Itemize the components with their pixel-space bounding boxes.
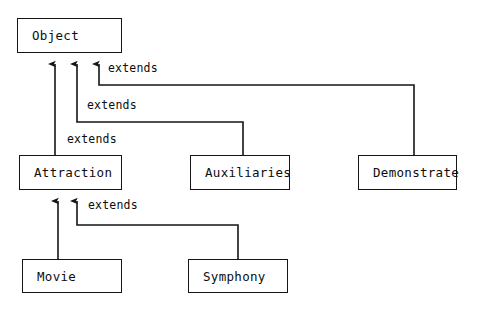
edge-label-text: extends [108, 61, 158, 75]
node-symphony-label: Symphony [203, 269, 266, 284]
node-attraction[interactable]: Attraction [19, 155, 122, 190]
node-auxiliaries[interactable]: Auxiliaries [190, 155, 290, 190]
node-auxiliaries-label: Auxiliaries [205, 165, 291, 180]
node-movie[interactable]: Movie [22, 259, 122, 293]
edge-label-text: extends [67, 132, 117, 146]
node-object[interactable]: Object [17, 18, 122, 53]
class-hierarchy-diagram: Object Attraction Auxiliaries Demonstrat… [0, 0, 481, 313]
edge-label-demonstrate-extends: extends [107, 61, 159, 75]
node-object-label: Object [32, 28, 79, 43]
edge-label-auxiliaries-extends: extends [86, 98, 138, 112]
node-attraction-label: Attraction [34, 165, 112, 180]
edge-label-text: extends [87, 98, 137, 112]
edge-label-text: extends [88, 198, 138, 212]
edge-demonstrate-to-object [99, 64, 414, 155]
node-demonstrate[interactable]: Demonstrate [358, 155, 457, 190]
node-symphony[interactable]: Symphony [188, 259, 288, 293]
edge-label-attraction-extends: extends [66, 132, 118, 146]
edge-label-symphony-extends: extends [87, 198, 139, 212]
node-movie-label: Movie [37, 269, 76, 284]
node-demonstrate-label: Demonstrate [373, 165, 459, 180]
